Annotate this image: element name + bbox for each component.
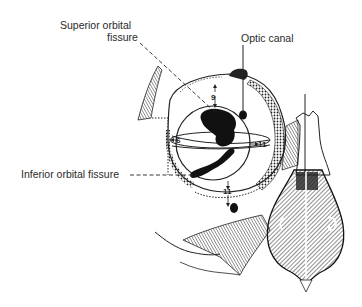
orbit-illustration: 9 6 11 11 <box>0 0 362 307</box>
measurement-top: 9 <box>211 93 216 102</box>
nasal-bones <box>282 94 330 175</box>
measurement-bottom: 11 <box>223 187 232 196</box>
measurement-left: 6 <box>176 136 181 145</box>
maxilla <box>155 188 270 275</box>
measurement-right: 11 <box>258 140 267 149</box>
nose <box>267 170 343 292</box>
lateral-orbital-rim <box>138 66 168 175</box>
